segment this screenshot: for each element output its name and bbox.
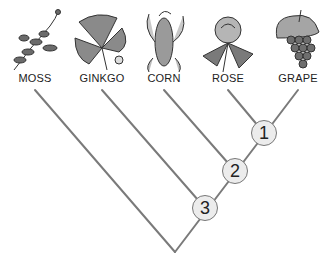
taxon-label: GRAPE	[263, 72, 333, 84]
cladogram: MOSS GINKGO CORN	[0, 0, 335, 269]
taxon-label: ROSE	[193, 72, 263, 84]
taxon-corn: CORN	[129, 0, 199, 92]
node-1: 1	[251, 120, 277, 146]
grape-bunch-icon	[263, 8, 333, 72]
taxon-label: CORN	[129, 72, 199, 84]
ginkgo-leaf-icon	[67, 8, 137, 72]
moss-icon	[0, 8, 70, 72]
corn-ear-icon	[129, 8, 199, 72]
rose-flower-icon	[193, 8, 263, 72]
taxon-moss: MOSS	[0, 0, 70, 92]
taxon-label: MOSS	[0, 72, 70, 84]
node-2: 2	[222, 158, 248, 184]
node-3: 3	[192, 195, 218, 221]
taxon-ginkgo: GINKGO	[67, 0, 137, 92]
taxon-grape: GRAPE	[263, 0, 333, 92]
taxon-rose: ROSE	[193, 0, 263, 92]
taxon-label: GINKGO	[67, 72, 137, 84]
